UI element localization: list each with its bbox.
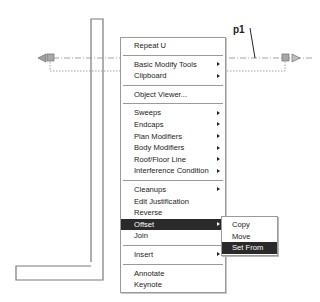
menu-item-label: Interference Condition bbox=[134, 166, 209, 175]
submenu-arrow-icon bbox=[217, 62, 220, 66]
submenu-arrow-icon bbox=[217, 134, 220, 138]
offset-submenu: Copy Move Set From bbox=[221, 216, 278, 256]
menu-item-label: Repeat U bbox=[134, 41, 166, 50]
p1-leader-line bbox=[250, 28, 255, 58]
submenu-arrow-icon bbox=[217, 252, 220, 256]
menu-item-label: Edit Justification bbox=[134, 197, 189, 206]
menu-item-label: Endcaps bbox=[134, 120, 164, 129]
menu-item-insert[interactable]: Insert bbox=[121, 249, 225, 261]
menu-item-label: Annotate bbox=[134, 269, 164, 278]
menu-separator bbox=[123, 180, 223, 181]
left-arrow-grip-icon bbox=[38, 54, 46, 62]
submenu-item-move[interactable]: Move bbox=[222, 231, 277, 243]
menu-item-repeat[interactable]: Repeat U bbox=[121, 40, 225, 52]
submenu-arrow-icon bbox=[217, 146, 220, 150]
menu-item-roof-floor-line[interactable]: Roof/Floor Line bbox=[121, 154, 225, 166]
menu-item-sweeps[interactable]: Sweeps bbox=[121, 107, 225, 119]
menu-item-label: Offset bbox=[134, 220, 154, 229]
submenu-arrow-icon bbox=[217, 157, 220, 161]
menu-item-label: Cleanups bbox=[134, 185, 166, 194]
menu-separator bbox=[123, 245, 223, 246]
left-grip[interactable] bbox=[38, 54, 54, 62]
submenu-arrow-icon bbox=[217, 187, 220, 191]
menu-item-join[interactable]: Join bbox=[121, 230, 225, 242]
menu-item-clipboard[interactable]: Clipboard bbox=[121, 70, 225, 82]
point-label-p1: p1 bbox=[233, 24, 245, 35]
menu-item-edit-justification[interactable]: Edit Justification bbox=[121, 196, 225, 208]
menu-item-offset[interactable]: Offset bbox=[121, 219, 225, 231]
menu-separator bbox=[123, 55, 223, 56]
menu-item-label: Roof/Floor Line bbox=[134, 155, 186, 164]
menu-item-label: Sweeps bbox=[134, 108, 161, 117]
submenu-arrow-icon bbox=[217, 169, 220, 173]
menu-item-endcaps[interactable]: Endcaps bbox=[121, 119, 225, 131]
right-grip[interactable] bbox=[282, 54, 300, 62]
menu-item-label: Object Viewer... bbox=[134, 90, 187, 99]
menu-item-body-modifiers[interactable]: Body Modifiers bbox=[121, 142, 225, 154]
context-menu: Repeat U Basic Modify Tools Clipboard Ob… bbox=[120, 37, 226, 293]
right-arrow-grip-icon bbox=[292, 54, 300, 62]
menu-item-annotate[interactable]: Annotate bbox=[121, 268, 225, 280]
menu-separator bbox=[123, 85, 223, 86]
menu-item-plan-modifiers[interactable]: Plan Modifiers bbox=[121, 131, 225, 143]
menu-item-interference-condition[interactable]: Interference Condition bbox=[121, 165, 225, 177]
menu-separator bbox=[123, 103, 223, 104]
menu-item-label: Move bbox=[232, 232, 251, 241]
menu-item-label: Set From bbox=[232, 243, 263, 252]
menu-item-label: Clipboard bbox=[134, 71, 167, 80]
menu-item-basic-modify-tools[interactable]: Basic Modify Tools bbox=[121, 59, 225, 71]
submenu-arrow-icon bbox=[217, 122, 220, 126]
menu-item-label: Insert bbox=[134, 250, 153, 259]
menu-item-label: Reverse bbox=[134, 208, 162, 217]
menu-item-cleanups[interactable]: Cleanups bbox=[121, 184, 225, 196]
right-square-grip-icon bbox=[282, 54, 289, 61]
submenu-arrow-icon bbox=[217, 111, 220, 115]
menu-item-object-viewer[interactable]: Object Viewer... bbox=[121, 89, 225, 101]
menu-item-keynote[interactable]: Keynote bbox=[121, 279, 225, 291]
menu-item-label: Body Modifiers bbox=[134, 143, 184, 152]
menu-item-label: Join bbox=[134, 231, 148, 240]
menu-item-label: Basic Modify Tools bbox=[134, 60, 197, 69]
menu-item-reverse[interactable]: Reverse bbox=[121, 207, 225, 219]
menu-separator bbox=[123, 264, 223, 265]
menu-item-label: Copy bbox=[232, 220, 250, 229]
menu-item-label: Keynote bbox=[134, 280, 162, 289]
submenu-arrow-icon bbox=[217, 74, 220, 78]
submenu-arrow-icon bbox=[217, 222, 220, 226]
submenu-item-set-from[interactable]: Set From bbox=[222, 242, 277, 254]
left-square-grip-icon bbox=[47, 54, 54, 61]
submenu-item-copy[interactable]: Copy bbox=[222, 219, 277, 231]
menu-item-label: Plan Modifiers bbox=[134, 132, 182, 141]
